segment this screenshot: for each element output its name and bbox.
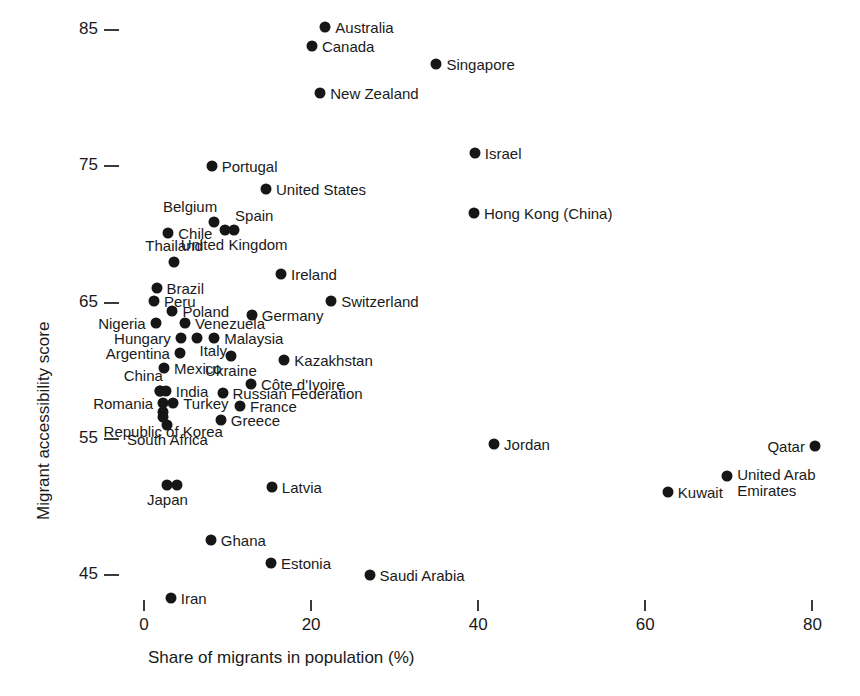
data-point[interactable] (225, 350, 236, 361)
data-point-label: Thailand (145, 238, 203, 255)
x-tick-label-80: 80 (782, 615, 842, 635)
y-tick-label-85: 85 (54, 19, 98, 39)
data-point[interactable] (229, 225, 240, 236)
y-tick-label-55: 55 (54, 428, 98, 448)
x-tick-mark (477, 600, 479, 611)
data-point-label: Greece (231, 412, 280, 429)
data-point-label: Latvia (282, 479, 322, 496)
data-point[interactable] (326, 296, 337, 307)
scatter-chart-figure: 4555657585020406080AustraliaCanadaSingap… (0, 0, 860, 696)
x-tick-label-0: 0 (114, 615, 174, 635)
data-point[interactable] (809, 440, 820, 451)
data-point[interactable] (169, 256, 180, 267)
x-tick-label-40: 40 (448, 615, 508, 635)
data-point-label: Switzerland (341, 294, 419, 311)
data-point-label: Japan (147, 492, 188, 509)
data-point-label: Israel (485, 145, 522, 162)
data-point-label: Kuwait (678, 485, 723, 502)
data-point[interactable] (662, 487, 673, 498)
x-tick-mark (644, 600, 646, 611)
data-point[interactable] (266, 481, 277, 492)
data-point-label: Italy (199, 343, 227, 360)
y-tick-mark (104, 574, 119, 576)
data-point-label: Iran (181, 591, 207, 608)
data-point[interactable] (469, 207, 480, 218)
data-point-label: Romania (93, 396, 153, 413)
data-point-label: Jordan (504, 437, 550, 454)
data-point-label: Spain (235, 209, 273, 226)
data-point-label: Qatar (767, 438, 805, 455)
y-tick-mark (104, 302, 119, 304)
x-axis-title: Share of migrants in population (%) (0, 648, 860, 668)
data-point[interactable] (489, 439, 500, 450)
data-point[interactable] (174, 348, 185, 359)
y-tick-label-65: 65 (54, 292, 98, 312)
data-point-label: Argentina (106, 346, 170, 363)
data-point-label: United States (276, 182, 366, 199)
data-point-label: Ireland (291, 267, 337, 284)
data-point[interactable] (162, 420, 173, 431)
data-point[interactable] (150, 318, 161, 329)
data-point[interactable] (469, 147, 480, 158)
data-point-label: Kazakhstan (294, 352, 372, 369)
data-point[interactable] (168, 398, 179, 409)
data-point[interactable] (265, 557, 276, 568)
data-point-label: Malaysia (224, 331, 283, 348)
data-point[interactable] (320, 22, 331, 33)
data-point-label: United ArabEmirates (737, 467, 815, 501)
data-point[interactable] (364, 570, 375, 581)
data-point[interactable] (165, 593, 176, 604)
data-point[interactable] (179, 318, 190, 329)
data-point-label-line: United Arab (737, 467, 815, 484)
data-point-label: Australia (335, 20, 393, 37)
data-point-label: China (124, 368, 163, 385)
data-point-label-line: Emirates (737, 483, 815, 500)
data-point[interactable] (205, 534, 216, 545)
data-point-label: New Zealand (330, 85, 418, 102)
x-tick-mark (811, 600, 813, 611)
data-point[interactable] (215, 414, 226, 425)
data-point[interactable] (315, 87, 326, 98)
plot-area: 4555657585020406080AustraliaCanadaSingap… (0, 0, 860, 696)
x-tick-label-20: 20 (281, 615, 341, 635)
data-point[interactable] (175, 333, 186, 344)
x-tick-mark (310, 600, 312, 611)
data-point[interactable] (276, 268, 287, 279)
data-point[interactable] (162, 480, 173, 491)
data-point[interactable] (306, 41, 317, 52)
data-point-label: Belgium (163, 199, 217, 216)
y-tick-label-45: 45 (54, 564, 98, 584)
data-point[interactable] (167, 305, 178, 316)
data-point-label: Canada (322, 39, 375, 56)
data-point[interactable] (160, 386, 171, 397)
data-point-label: Portugal (222, 159, 278, 176)
y-tick-mark (104, 29, 119, 31)
data-point-label: South Africa (127, 432, 208, 449)
data-point-label: Germany (262, 307, 324, 324)
data-point-label: Estonia (281, 556, 331, 573)
data-point-label: Saudi Arabia (380, 568, 465, 585)
x-tick-label-60: 60 (615, 615, 675, 635)
data-point[interactable] (722, 470, 733, 481)
y-tick-label-75: 75 (54, 155, 98, 175)
data-point[interactable] (206, 161, 217, 172)
data-point-label: Hong Kong (China) (484, 205, 612, 222)
x-tick-mark (143, 600, 145, 611)
data-point[interactable] (279, 354, 290, 365)
data-point[interactable] (235, 401, 246, 412)
data-point[interactable] (431, 59, 442, 70)
data-point[interactable] (149, 296, 160, 307)
data-point[interactable] (260, 184, 271, 195)
data-point-label: Singapore (446, 57, 514, 74)
y-axis-title: Migrant accessibility score (34, 322, 54, 520)
data-point[interactable] (151, 282, 162, 293)
y-tick-mark (104, 165, 119, 167)
data-point-label: Turkey (183, 396, 228, 413)
data-point-label: Mexico (174, 361, 222, 378)
data-point-label: Ghana (221, 532, 266, 549)
